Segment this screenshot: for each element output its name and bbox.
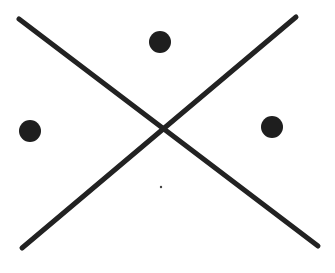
dots — [19, 31, 283, 188]
dot-right — [261, 116, 283, 138]
dot-small-bottom — [160, 186, 162, 188]
dot-top — [149, 31, 171, 53]
x-cross-diagram — [0, 0, 335, 273]
dot-left — [19, 120, 41, 142]
